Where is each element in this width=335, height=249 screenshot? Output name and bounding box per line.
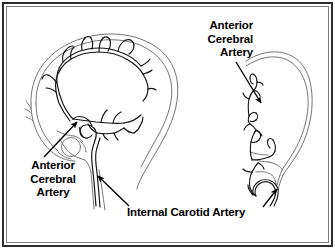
leader-aca-left (44, 122, 77, 157)
label-line: Cerebral (208, 33, 253, 47)
label-line: Anterior (16, 159, 90, 173)
label-line: Artery (208, 46, 253, 60)
figure-root: Anterior Cerebral Artery Anterior Cerebr… (0, 0, 335, 249)
label-anterior-cerebral-artery-left: Anterior Cerebral Artery (16, 159, 90, 200)
label-line: Cerebral (16, 173, 90, 187)
lateral-skull-inner-table (36, 40, 172, 167)
lateral-skull-base-detail (25, 101, 71, 159)
label-line: Artery (16, 186, 90, 200)
label-line: Internal Carotid Artery (127, 206, 245, 220)
label-anterior-cerebral-artery-top: Anterior Cerebral Artery (208, 19, 253, 60)
label-internal-carotid-artery: Internal Carotid Artery (127, 206, 245, 220)
ap-arteries (243, 74, 278, 206)
label-line: Anterior (208, 19, 253, 33)
ap-view-panel (243, 52, 312, 206)
ap-skull-outline (246, 52, 312, 190)
